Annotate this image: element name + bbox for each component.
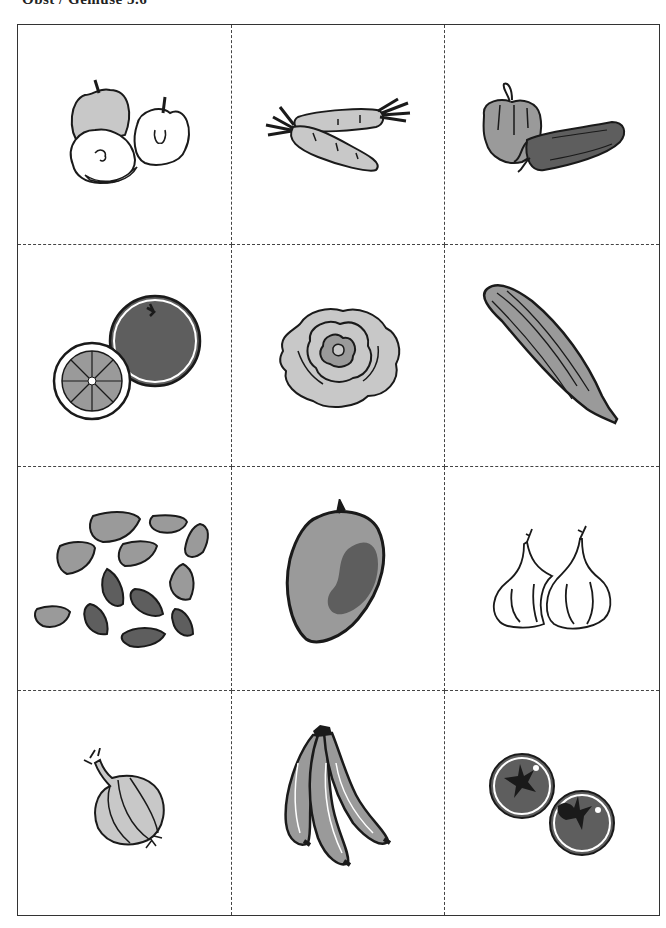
card-orange[interactable]: Orange	[18, 245, 232, 467]
card-tomatoes[interactable]: Tomatoes	[445, 691, 659, 915]
card-cucumber[interactable]: Cucumber	[445, 245, 659, 467]
card-bananas[interactable]: Bananas	[232, 691, 445, 915]
card-garlic[interactable]: Garlic	[445, 467, 659, 691]
cucumber-icon	[477, 281, 627, 431]
onion-icon	[70, 748, 180, 858]
lettuce-icon	[268, 296, 408, 416]
almond-icon	[25, 504, 225, 654]
card-almonds[interactable]: Almonds	[18, 467, 232, 691]
garlic-icon	[482, 524, 622, 634]
card-mango[interactable]: Mango	[232, 467, 445, 691]
card-apples[interactable]: Apples	[18, 25, 232, 245]
card-peppers[interactable]: Bell peppers	[445, 25, 659, 245]
card-carrots[interactable]: Carrots	[232, 25, 445, 245]
flashcard-grid: Apples Carrots Bell peppers	[17, 24, 660, 916]
card-lettuce[interactable]: Lettuce	[232, 245, 445, 467]
tomato-icon	[482, 748, 622, 858]
page-title: Obst / Gemüse 5.6	[22, 0, 147, 3]
carrot-icon	[258, 95, 418, 175]
banana-icon	[268, 723, 408, 883]
pepper-icon	[472, 80, 632, 190]
apple-icon	[55, 75, 195, 195]
mango-icon	[278, 499, 398, 659]
orange-icon	[40, 286, 210, 426]
card-onion[interactable]: Onion	[18, 691, 232, 915]
